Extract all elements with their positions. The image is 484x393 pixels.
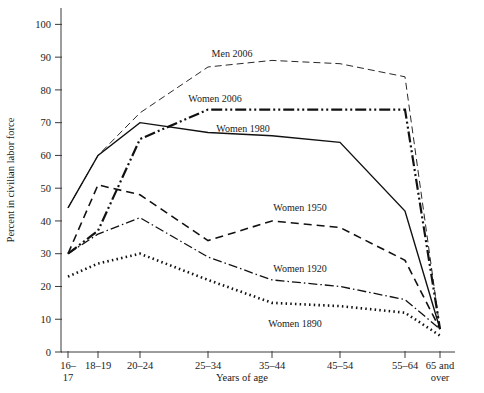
- y-tick-label: 50: [41, 183, 52, 194]
- x-tick-label: 18–19: [85, 360, 111, 371]
- series-line-women-1950: [68, 185, 440, 329]
- series-label-women-1950: Women 1950: [273, 202, 326, 213]
- series-labels: Men 2006Women 2006Women 1980Women 1950Wo…: [188, 48, 326, 329]
- x-tick-label: 45–54: [327, 360, 354, 371]
- y-tick-label: 90: [41, 52, 52, 63]
- series-label-women-1890: Women 1890: [268, 318, 321, 329]
- series-label-women-2006: Women 2006: [188, 93, 241, 104]
- y-tick-label: 30: [41, 248, 52, 259]
- series-line-women-1890: [68, 254, 440, 336]
- series-label-men-2006: Men 2006: [212, 48, 253, 59]
- chart-container: 0102030405060708090100 16–1718–1920–2425…: [0, 0, 484, 393]
- y-tick-label: 70: [41, 117, 52, 128]
- x-tick-label: 16–: [60, 360, 77, 371]
- series-line-women-1920: [68, 218, 440, 329]
- x-tick-label: 17: [63, 372, 74, 383]
- series-line-men-2006: [68, 60, 440, 329]
- series-lines: [68, 60, 440, 335]
- y-tick-label: 100: [35, 19, 51, 30]
- y-tick-label: 60: [41, 150, 52, 161]
- y-tick-label: 80: [41, 85, 52, 96]
- y-tick-label: 40: [41, 216, 52, 227]
- x-axis-title: Years of age: [216, 372, 268, 383]
- x-tick-label: over: [431, 372, 450, 383]
- x-tick-label: 20–24: [127, 360, 154, 371]
- x-tick-label: 25–34: [195, 360, 222, 371]
- series-label-women-1920: Women 1920: [273, 263, 326, 274]
- x-tick-label: 55–64: [392, 360, 419, 371]
- y-tick-label: 10: [41, 314, 52, 325]
- series-label-women-1980: Women 1980: [216, 123, 269, 134]
- y-tick-label: 20: [41, 281, 52, 292]
- x-tick-label: 35–44: [259, 360, 286, 371]
- y-tick-label: 0: [46, 347, 51, 358]
- y-axis-title: Percent in civilian labor force: [5, 117, 16, 242]
- x-tick-label: 65 and: [426, 360, 455, 371]
- y-axis-ticks: 0102030405060708090100: [35, 19, 62, 358]
- labor-force-line-chart: 0102030405060708090100 16–1718–1920–2425…: [0, 0, 484, 393]
